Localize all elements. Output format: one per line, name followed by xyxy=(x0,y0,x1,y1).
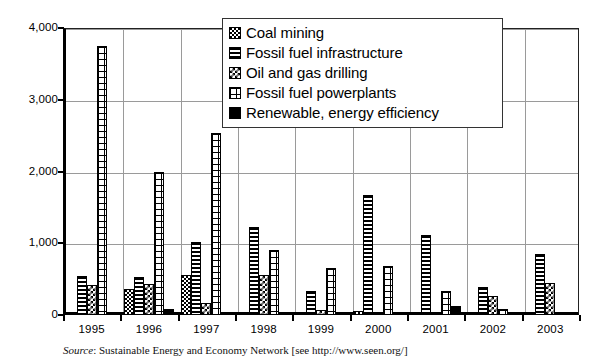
bar xyxy=(239,313,249,315)
legend-item-label: Fossil fuel infrastructure xyxy=(246,45,403,61)
bar xyxy=(525,313,535,315)
caption-source-word: Source xyxy=(63,344,93,356)
bar-group-1996 xyxy=(120,28,177,315)
legend-swatch-icon xyxy=(229,87,241,99)
bar xyxy=(316,310,326,315)
bar xyxy=(431,313,441,315)
bar xyxy=(124,289,134,315)
bar xyxy=(97,46,107,315)
bar xyxy=(451,306,461,315)
source-caption: Source: Sustainable Energy and Economy N… xyxy=(63,344,583,357)
x-axis-tick-label: 2003 xyxy=(522,322,579,342)
legend-swatch-icon xyxy=(229,47,241,59)
caption-text: : Sustainable Energy and Economy Network… xyxy=(93,344,407,356)
legend-item: Fossil fuel powerplants xyxy=(229,83,497,103)
bar xyxy=(545,283,555,315)
x-axis-tick-label: 2001 xyxy=(407,322,464,342)
bar xyxy=(134,277,144,315)
bar xyxy=(411,313,421,315)
bar xyxy=(211,133,221,315)
x-axis-tick-mark xyxy=(235,315,237,321)
y-axis-tick-label: 3,000 xyxy=(6,94,58,106)
bar xyxy=(441,291,451,315)
legend-item-label: Fossil fuel powerplants xyxy=(246,85,396,101)
y-axis-tick-label: 2,000 xyxy=(6,166,58,178)
x-axis-tick-mark xyxy=(178,315,180,321)
legend-item: Oil and gas drilling xyxy=(229,63,497,83)
bar xyxy=(393,313,403,315)
y-axis-tick-mark xyxy=(58,171,64,173)
bar xyxy=(373,313,383,315)
bar xyxy=(306,291,316,315)
bar xyxy=(77,276,87,315)
x-axis-tick-label: 2002 xyxy=(464,322,521,342)
legend-item: Fossil fuel infrastructure xyxy=(229,43,497,63)
x-axis-tick-label: 1995 xyxy=(63,322,120,342)
y-axis-tick-mark xyxy=(58,242,64,244)
x-axis-tick-label: 1997 xyxy=(178,322,235,342)
bar xyxy=(383,266,393,315)
bar xyxy=(87,285,97,315)
bar xyxy=(259,275,269,315)
bar xyxy=(279,313,289,315)
bar xyxy=(326,268,336,315)
bar xyxy=(296,313,306,315)
x-axis-tick-mark xyxy=(120,315,122,321)
x-axis-tick-mark xyxy=(464,315,466,321)
bar xyxy=(201,303,211,315)
bar xyxy=(488,296,498,315)
bar xyxy=(336,313,346,315)
legend-swatch-icon xyxy=(229,107,241,119)
y-axis: 4,0003,0002,0001,0000 xyxy=(0,28,58,315)
x-axis-tick-mark xyxy=(522,315,524,321)
legend-swatch-icon xyxy=(229,27,241,39)
y-axis-tick-mark xyxy=(58,27,64,29)
legend-item: Coal mining xyxy=(229,23,497,43)
x-axis-tick-mark xyxy=(579,315,581,321)
bar xyxy=(67,313,77,315)
bar xyxy=(478,287,488,315)
bar xyxy=(221,313,231,315)
bar xyxy=(144,284,154,315)
bar xyxy=(154,172,164,316)
bar xyxy=(468,313,478,315)
bar xyxy=(535,254,545,315)
x-axis-tick-label: 2000 xyxy=(350,322,407,342)
bar xyxy=(164,309,174,315)
x-axis: 199519961997199819992000200120022003 xyxy=(63,322,579,342)
bar-group-1995 xyxy=(63,28,120,315)
bar xyxy=(181,275,191,315)
legend-item-label: Renewable, energy efficiency xyxy=(246,105,439,121)
bar xyxy=(421,235,431,315)
bar xyxy=(498,309,508,315)
bar xyxy=(508,313,518,315)
x-axis-tick-mark xyxy=(407,315,409,321)
legend-item-label: Oil and gas drilling xyxy=(246,65,367,81)
x-axis-tick-mark xyxy=(63,315,65,321)
x-axis-tick-label: 1998 xyxy=(235,322,292,342)
y-axis-tick-label: 4,000 xyxy=(6,22,58,34)
bar xyxy=(269,250,279,315)
chart-legend: Coal miningFossil fuel infrastructureOil… xyxy=(222,18,503,128)
bar xyxy=(555,313,565,315)
y-axis-tick-label: 0 xyxy=(6,309,58,321)
x-axis-tick-mark xyxy=(350,315,352,321)
x-axis-tick-label: 1996 xyxy=(120,322,177,342)
bar-chart-figure: 4,0003,0002,0001,0000 Coal miningFossil … xyxy=(0,0,590,364)
bar xyxy=(249,227,259,315)
y-axis-tick-mark xyxy=(58,99,64,101)
legend-swatch-icon xyxy=(229,67,241,79)
bar-group-2003 xyxy=(522,28,579,315)
bar xyxy=(107,313,117,315)
bar xyxy=(363,195,373,315)
y-axis-tick-label: 1,000 xyxy=(6,237,58,249)
legend-item-label: Coal mining xyxy=(246,25,324,41)
legend-item: Renewable, energy efficiency xyxy=(229,103,497,123)
bar xyxy=(191,242,201,315)
bar xyxy=(565,313,575,315)
x-axis-tick-mark xyxy=(292,315,294,321)
bar xyxy=(353,311,363,315)
x-axis-tick-label: 1999 xyxy=(292,322,349,342)
